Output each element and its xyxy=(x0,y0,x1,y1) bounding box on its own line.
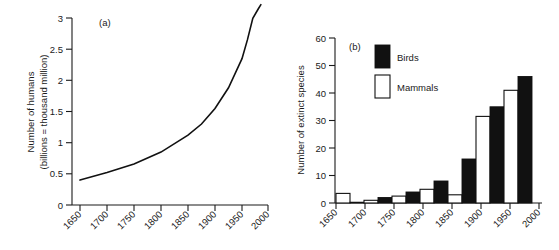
panel-b-xtick-label-1850: 1850 xyxy=(433,207,456,230)
bar-birds-1650 xyxy=(350,202,364,203)
panel-a-x-ticks xyxy=(80,205,268,211)
legend-label-birds: Birds xyxy=(397,52,419,63)
panel-b-ytick-label-0: 0 xyxy=(321,198,326,209)
panel-b-svg: 0 10 20 30 40 50 60 Number of extinct sp… xyxy=(280,0,559,250)
panel-b-ytick-label-50: 50 xyxy=(315,60,326,71)
panel-a-xtick-label-1850: 1850 xyxy=(169,209,192,232)
panel-a-y-ticks xyxy=(66,18,72,205)
bar-birds-1750 xyxy=(406,192,420,203)
panel-b-xtick-label-1900: 1900 xyxy=(462,207,485,230)
legend: Birds Mammals xyxy=(375,45,438,98)
panel-b-xtick-label-1950: 1950 xyxy=(491,207,514,230)
panel-b-y-ticks xyxy=(329,38,335,203)
panel-a-xtick-label-1650: 1650 xyxy=(61,209,84,232)
bar-mammals-1700 xyxy=(364,200,378,203)
panel-a-xtick-label-1900: 1900 xyxy=(196,209,219,232)
panel-b-ytick-label-20: 20 xyxy=(315,143,326,154)
panel-a-ytick-label-5: 2.5 xyxy=(50,44,63,55)
panel-a-human-population: 0 0.5 1 1.5 2 2.5 3 1650 1700 1750 180 xyxy=(0,0,280,250)
bar-mammals-1850 xyxy=(448,195,462,203)
panel-a-ytick-label-0: 0 xyxy=(58,200,63,211)
panel-a-xtick-label-1700: 1700 xyxy=(88,209,111,232)
panel-b-xtick-label-1800: 1800 xyxy=(404,207,427,230)
panel-b-ytick-label-40: 40 xyxy=(315,88,326,99)
bar-birds-1700 xyxy=(378,198,392,204)
panel-a-label: (a) xyxy=(99,17,111,28)
panel-a-ytick-label-1: 0.5 xyxy=(50,168,63,179)
bar-birds-1950 xyxy=(518,77,532,204)
panel-a-ytick-label-4: 2 xyxy=(58,75,63,86)
panel-b-ytick-label-10: 10 xyxy=(315,170,326,181)
bar-mammals-1900 xyxy=(476,116,490,203)
panel-a-y-axis-title-line1: Number of humans xyxy=(25,71,36,152)
panel-b-x-ticks xyxy=(336,203,539,209)
panel-b-ytick-label-30: 30 xyxy=(315,115,326,126)
panel-b-xtick-label-2000: 2000 xyxy=(520,207,543,230)
bar-birds-1900 xyxy=(490,107,504,203)
bar-mammals-1950 xyxy=(504,90,518,203)
legend-swatch-birds xyxy=(375,45,390,68)
legend-swatch-mammals xyxy=(375,75,390,98)
panel-b-label: (b) xyxy=(349,41,361,52)
legend-label-mammals: Mammals xyxy=(397,82,438,93)
panel-b-xtick-label-1650: 1650 xyxy=(317,207,340,230)
panel-a-xtick-label-1950: 1950 xyxy=(223,209,246,232)
bar-birds-1850 xyxy=(462,159,476,203)
panel-a-population-curve xyxy=(80,5,261,181)
bar-mammals-1800 xyxy=(420,189,434,203)
panel-a-xtick-label-1750: 1750 xyxy=(115,209,138,232)
panel-b-y-axis-title: Number of extinct species xyxy=(295,65,306,175)
panel-a-svg: 0 0.5 1 1.5 2 2.5 3 1650 1700 1750 180 xyxy=(0,0,280,250)
panel-a-y-axis-title-line2: (billions = thousand million) xyxy=(38,55,49,170)
bar-birds-1800 xyxy=(434,181,448,203)
panel-b-xtick-label-1700: 1700 xyxy=(346,207,369,230)
panel-a-ytick-label-2: 1 xyxy=(58,137,63,148)
panel-a-xtick-label-1800: 1800 xyxy=(142,209,165,232)
panel-a-ytick-label-6: 3 xyxy=(58,13,63,24)
figure-container: 0 0.5 1 1.5 2 2.5 3 1650 1700 1750 180 xyxy=(0,0,559,250)
panel-a-xtick-label-2000: 2000 xyxy=(249,209,272,232)
panel-b-xtick-label-1750: 1750 xyxy=(375,207,398,230)
bars-group xyxy=(336,77,532,204)
panel-a-ytick-label-3: 1.5 xyxy=(50,106,63,117)
panel-b-extinct-species: 0 10 20 30 40 50 60 Number of extinct sp… xyxy=(280,0,559,250)
bar-mammals-1650 xyxy=(336,193,350,203)
bar-mammals-1750 xyxy=(392,196,406,203)
panel-b-ytick-label-60: 60 xyxy=(315,33,326,44)
